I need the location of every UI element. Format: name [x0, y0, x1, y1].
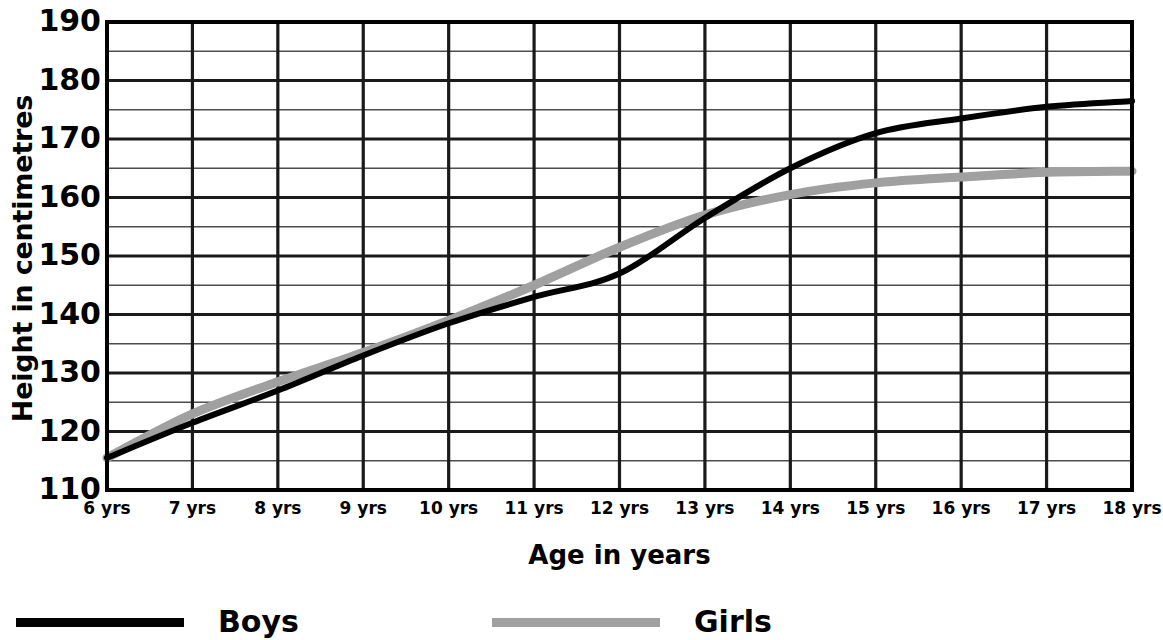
x-axis-tick-label: 18 yrs — [1077, 498, 1163, 518]
plot-area — [0, 0, 1163, 640]
legend-line-swatch-boys — [16, 618, 184, 627]
legend-line-swatch-girls — [492, 618, 660, 627]
chart-legend: BoysGirls — [0, 604, 1163, 640]
legend-item-girls: Girls — [492, 604, 772, 640]
legend-label: Boys — [218, 607, 299, 637]
legend-label: Girls — [694, 607, 772, 637]
height-for-age-line-chart: Height in centimetres 190180170160150140… — [0, 0, 1163, 640]
legend-item-boys: Boys — [16, 604, 299, 640]
